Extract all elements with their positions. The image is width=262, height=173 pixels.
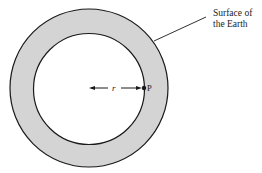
earth-diagram: r P Surface of the Earth (0, 0, 262, 173)
surface-label-line2: the Earth (213, 19, 248, 29)
radius-label: r (112, 83, 116, 93)
point-p-label: P (147, 83, 152, 93)
point-p-marker (142, 86, 146, 90)
inner-sphere-radius-r (34, 34, 145, 145)
surface-leader-line (154, 17, 206, 41)
surface-label-line1: Surface of (213, 8, 253, 18)
